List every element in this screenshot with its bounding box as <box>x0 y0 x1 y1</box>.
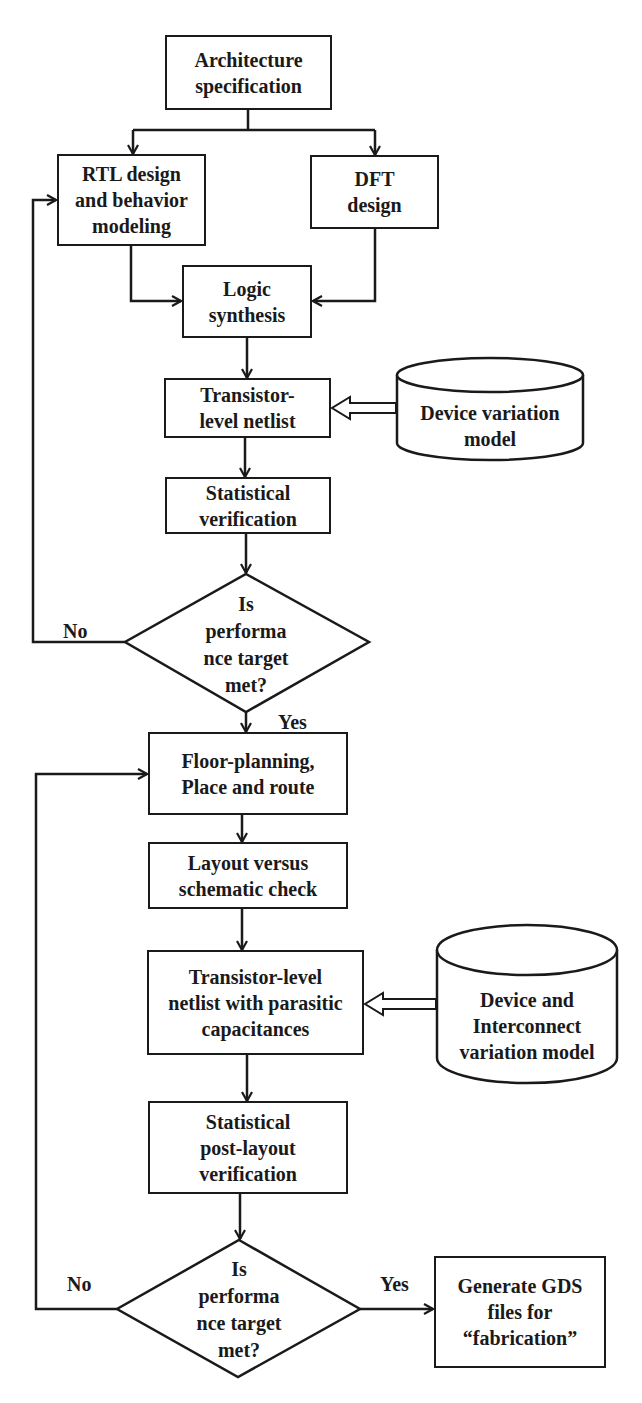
edge-label-decision2-no: No <box>67 1273 91 1295</box>
label-decision-1: Is performa nce target met? <box>176 590 316 700</box>
edge-label-decision2-yes: Yes <box>380 1273 409 1295</box>
node-logic-synthesis: Logic synthesis <box>182 265 312 338</box>
hollow-arrow-interconnect-model <box>365 993 436 1015</box>
edge-arch-split <box>133 109 375 130</box>
node-parasitic-netlist: Transistor-level netlist with parasitic … <box>147 950 364 1055</box>
node-layout-versus-schematic: Layout versus schematic check <box>148 842 348 909</box>
node-post-layout-verification: Statistical post-layout verification <box>148 1101 348 1194</box>
hollow-arrow-device-model <box>332 397 396 419</box>
node-statistical-verification: Statistical verification <box>165 477 331 534</box>
node-architecture-specification: Architecture specification <box>165 35 332 110</box>
node-generate-gds: Generate GDS files for “fabrication” <box>434 1256 606 1368</box>
node-dft-design: DFT design <box>310 155 439 229</box>
node-rtl-design: RTL design and behavior modeling <box>57 154 206 246</box>
edge-decision2-no <box>36 774 147 1309</box>
edge-label-decision1-yes: Yes <box>278 711 307 733</box>
edge-decision1-no <box>33 200 125 642</box>
edge-dft-to-logic <box>313 228 375 301</box>
node-floor-planning: Floor-planning, Place and route <box>148 732 348 815</box>
label-interconnect-variation-model: Device and Interconnect variation model <box>437 976 617 1076</box>
label-decision-2: Is performa nce target met? <box>169 1255 309 1365</box>
label-device-variation-model: Device variation model <box>397 394 583 458</box>
edge-rtl-to-logic <box>131 245 181 301</box>
node-transistor-netlist: Transistor- level netlist <box>164 378 331 438</box>
edge-label-decision1-no: No <box>63 620 87 642</box>
